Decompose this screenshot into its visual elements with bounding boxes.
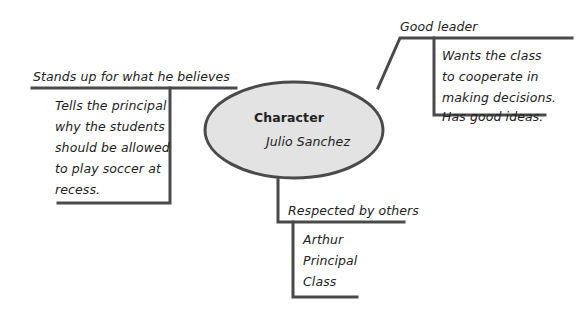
branch-detail-line: Class xyxy=(303,271,336,292)
branch-detail-line: Has good ideas. xyxy=(442,106,543,127)
branch-label-good-leader: Good leader xyxy=(400,16,478,37)
branch-detail-line: Wants the class xyxy=(442,45,542,66)
character-web-diagram: Character Julio Sanchez Stands up for wh… xyxy=(0,0,582,317)
branch-detail-line: to play soccer at xyxy=(55,158,161,179)
branch-detail-line: recess. xyxy=(55,179,100,200)
branch-detail-line: Tells the principal xyxy=(55,95,166,116)
branch-detail-line: to cooperate in xyxy=(442,66,539,87)
branch-detail-line: making decisions. xyxy=(442,87,556,108)
branch-detail-line: why the students xyxy=(55,116,165,137)
center-name: Julio Sanchez xyxy=(266,131,350,152)
center-heading: Character xyxy=(254,107,324,128)
branch-detail-line: should be allowed xyxy=(55,137,170,158)
branch-label-stands-up: Stands up for what he believes xyxy=(33,66,230,87)
branch-detail-line: Principal xyxy=(303,250,357,271)
center-ellipse xyxy=(205,82,383,178)
branch-detail-line: Arthur xyxy=(303,229,343,250)
branch-label-respected: Respected by others xyxy=(288,200,419,221)
